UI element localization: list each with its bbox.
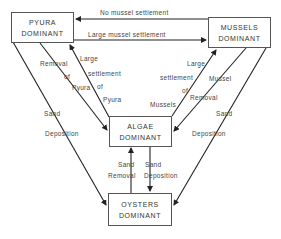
node-label-line2: DOMINANT [218, 33, 260, 44]
edge-label-right-deposition: Deposition [192, 130, 226, 138]
edge-label-large-mussel-settlement: Large mussel settlement [88, 31, 166, 39]
edge-label-mussel-removal-2: Removal [190, 94, 218, 102]
edge-label-no-mussel-settlement: No mussel settlement [100, 9, 169, 17]
edge-label-left-deposition: Deposition [45, 130, 79, 138]
edge-label-settlement-of-pyura-1: Large [80, 55, 98, 63]
edge-label-sand-removal-2: Removal [108, 172, 136, 180]
edge-label-settlement-of-pyura-2: settlement [88, 70, 121, 78]
node-algae-dominant: ALGAE DOMINANT [109, 116, 172, 147]
node-label-line1: ALGAE [127, 121, 153, 132]
edge-label-settlement-of-mussels-1: Large [187, 60, 205, 68]
edge-label-removal-of-pyura-1: Removal [40, 60, 68, 68]
edge-label-right-sand: Sand [216, 110, 232, 118]
node-oysters-dominant: OYSTERS DOMINANT [108, 193, 172, 226]
node-label-line2: DOMINANT [119, 132, 161, 143]
edge-label-sand-deposition-2: Deposition [144, 172, 178, 180]
node-label-line1: OYSTERS [121, 199, 159, 210]
node-label-line1: PYURA [29, 17, 56, 28]
edge-label-mussel-removal-1: Mussel [209, 75, 231, 83]
arrow-mussels-to-oysters [174, 48, 266, 205]
edge-label-settlement-of-pyura-4: Pyura [103, 96, 121, 104]
edge-label-settlement-of-mussels-2: settlement [160, 74, 193, 82]
edge-label-settlement-of-pyura-3: of [97, 83, 103, 91]
edge-label-sand-removal-1: Sand [118, 161, 134, 169]
edge-label-settlement-of-mussels-4: Mussels [150, 101, 176, 109]
node-label-line1: MUSSELS [221, 22, 259, 33]
node-pyura-dominant: PYURA DOMINANT [11, 12, 74, 43]
edge-label-left-sand: Sand [44, 110, 60, 118]
edge-label-sand-deposition-1: Sand [145, 161, 161, 169]
node-label-line2: DOMINANT [119, 210, 161, 221]
edge-label-removal-of-pyura-3: Pyura [72, 84, 90, 92]
node-label-line2: DOMINANT [21, 28, 63, 39]
node-mussels-dominant: MUSSELS DOMINANT [208, 17, 271, 48]
edge-label-settlement-of-mussels-3: of [182, 87, 188, 95]
edge-label-removal-of-pyura-2: of [64, 73, 70, 81]
